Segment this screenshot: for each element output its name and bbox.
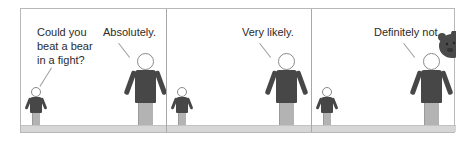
speech-question: Could you beat a bear in a fight? [37,25,93,67]
speech-line: Very likely. [242,25,294,39]
large-person [412,53,452,128]
floor [167,125,311,132]
head [177,87,187,97]
head [31,87,41,97]
speech-line: Definitely not. [374,25,441,39]
panel-3: Definitely not. [312,9,456,132]
panel-2: Very likely. [167,9,311,132]
large-person [267,53,307,128]
speech-line: in a fight? [37,53,93,67]
speech-answer: Absolutely. [103,25,156,39]
large-person [126,53,166,128]
speech-tail [39,67,52,86]
head [278,53,295,70]
speech-line: beat a bear [37,39,93,53]
comic-strip: Could you beat a bear in a fight? Absolu… [20,8,455,133]
head [423,53,440,70]
head [322,87,332,97]
arm [440,70,453,95]
small-person [171,87,193,128]
speech-answer: Definitely not. [374,25,441,39]
torso [135,70,156,103]
torso [276,70,297,103]
speech-line: Could you [37,25,93,39]
panel-1: Could you beat a bear in a fight? Absolu… [21,9,166,132]
torso [421,70,442,103]
small-person [25,87,47,128]
small-person [316,87,338,128]
floor [21,125,166,132]
speech-line: Absolutely. [103,25,156,39]
speech-answer: Very likely. [242,25,294,39]
arm [295,70,308,95]
head [137,53,154,70]
floor [312,125,456,132]
